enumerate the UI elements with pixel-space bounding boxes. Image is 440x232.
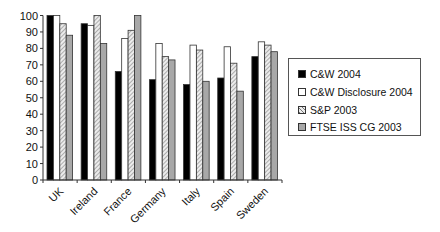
y-tick-label: 50 [26, 92, 38, 104]
legend-swatch-gray [298, 123, 306, 131]
bar [156, 43, 162, 180]
x-tick-label: Italy [179, 185, 202, 208]
y-tick-label: 10 [26, 158, 38, 170]
bar [224, 47, 230, 180]
legend-label: C&W Disclosure 2004 [310, 86, 413, 98]
bar [100, 43, 106, 180]
bar [218, 78, 224, 180]
y-tick-label: 20 [26, 141, 38, 153]
legend-item-ftse-iss-cg-2003: FTSE ISS CG 2003 [298, 120, 402, 134]
y-tick-label: 30 [26, 125, 38, 137]
bar [190, 45, 196, 180]
y-tick-label: 0 [32, 174, 38, 186]
bar [128, 30, 134, 180]
y-tick-label: 60 [26, 75, 38, 87]
bars [47, 16, 277, 181]
bar [53, 16, 59, 181]
legend-label: C&W 2004 [310, 68, 361, 80]
x-tick-label: Germany [127, 185, 168, 226]
bar [66, 35, 72, 180]
bar [88, 25, 94, 180]
bar [122, 39, 128, 180]
x-tick-label: Sweden [234, 185, 271, 222]
y-tick-label: 80 [26, 42, 38, 54]
bar [149, 80, 155, 180]
legend-swatch-black [298, 70, 306, 78]
bar [231, 63, 237, 180]
legend-item-sp-2003: S&P 2003 [298, 103, 357, 117]
x-tick-label: Ireland [67, 185, 99, 217]
bar [162, 57, 168, 180]
bar [94, 16, 100, 181]
y-tick-label: 100 [20, 10, 38, 22]
bar [81, 24, 87, 180]
legend: C&W 2004 C&W Disclosure 2004 S&P 2003 FT… [288, 58, 421, 136]
legend-label: S&P 2003 [310, 104, 357, 116]
bar [237, 91, 243, 180]
bar [115, 71, 121, 180]
x-tick-label: UK [46, 184, 66, 204]
bar [271, 52, 277, 180]
legend-swatch-white [298, 88, 306, 96]
bar [47, 16, 53, 181]
x-tick-label: Spain [208, 185, 236, 213]
legend-item-cw-2004: C&W 2004 [298, 67, 361, 81]
y-tick-label: 70 [26, 59, 38, 71]
bar [134, 16, 140, 181]
legend-item-cw-disclosure-2004: C&W Disclosure 2004 [298, 85, 413, 99]
bar [252, 57, 258, 180]
bar [265, 45, 271, 180]
bar [60, 24, 66, 180]
y-tick-label: 40 [26, 108, 38, 120]
bar [258, 42, 264, 180]
y-tick-label: 90 [26, 26, 38, 38]
bar [169, 60, 175, 180]
bar [184, 85, 190, 180]
bar [196, 50, 202, 180]
legend-label: FTSE ISS CG 2003 [310, 121, 402, 133]
bar [203, 81, 209, 180]
legend-swatch-hatched [298, 106, 306, 114]
y-axis: 0102030405060708090100 [20, 10, 43, 187]
x-tick-label: France [101, 185, 134, 218]
x-axis: UKIrelandFranceGermanyItalySpainSweden [43, 180, 282, 225]
